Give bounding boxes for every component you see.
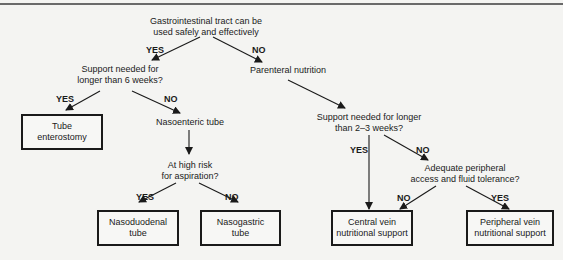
node-text: Adequate peripheral — [400, 163, 530, 174]
edge-label-root-yes: YES — [146, 45, 164, 55]
edge-label-asp-no: NO — [225, 192, 239, 202]
node-peripheral-vein-support: Peripheral vein nutritional support — [466, 210, 554, 246]
node-text: Nasoenteric tube — [145, 117, 235, 128]
node-text: tube — [217, 228, 265, 239]
node-text: Peripheral vein — [474, 217, 546, 228]
node-text: Support needed for — [70, 64, 170, 75]
node-text: Central vein — [336, 217, 408, 228]
node-text: Support needed for longer — [300, 112, 438, 123]
node-text: At high risk — [150, 160, 230, 171]
node-text: Gastrointestinal tract can be — [146, 16, 266, 27]
node-nasoenteric-tube: Nasoenteric tube — [145, 117, 235, 128]
node-text: Nasoduodenal — [109, 217, 167, 228]
node-support-6-weeks-question: Support needed for longer than 6 weeks? — [70, 64, 170, 86]
node-text: enterostomy — [37, 132, 87, 143]
node-central-vein-support: Central vein nutritional support — [331, 210, 413, 246]
edge-label-s23-yes: YES — [350, 145, 368, 155]
arrow-parenteral-down — [288, 80, 345, 108]
node-parenteral-nutrition: Parenteral nutrition — [238, 65, 338, 76]
node-text: Parenteral nutrition — [238, 65, 338, 76]
edge-label-pq-yes: YES — [491, 193, 509, 203]
node-text: used safely and effectively — [146, 27, 266, 38]
node-text: nutritional support — [474, 228, 546, 239]
node-peripheral-access-question: Adequate peripheral access and fluid tol… — [400, 163, 530, 185]
edge-label-s6-yes: YES — [56, 94, 74, 104]
node-nasogastric-tube: Nasogastric tube — [200, 210, 281, 246]
edge-label-s23-no: NO — [416, 145, 430, 155]
node-text: tube — [109, 228, 167, 239]
edge-label-s6-no: NO — [164, 94, 178, 104]
node-text: longer than 6 weeks? — [70, 75, 170, 86]
node-gi-tract-question: Gastrointestinal tract can be used safel… — [146, 16, 266, 38]
node-text: for aspiration? — [150, 171, 230, 182]
node-nasoduodenal-tube: Nasoduodenal tube — [97, 210, 179, 246]
node-text: nutritional support — [336, 228, 408, 239]
node-text: Nasogastric — [217, 217, 265, 228]
node-tube-enterostomy: Tube enterostomy — [21, 114, 103, 150]
edge-label-asp-yes: YES — [136, 192, 154, 202]
edge-label-pq-no: NO — [397, 193, 411, 203]
edge-label-root-no: NO — [252, 45, 266, 55]
node-support-2-3-weeks-question: Support needed for longer than 2–3 weeks… — [300, 112, 438, 134]
node-text: Tube — [37, 121, 87, 132]
node-aspiration-risk-question: At high risk for aspiration? — [150, 160, 230, 182]
node-text: access and fluid tolerance? — [400, 174, 530, 185]
node-text: than 2–3 weeks? — [300, 123, 438, 134]
